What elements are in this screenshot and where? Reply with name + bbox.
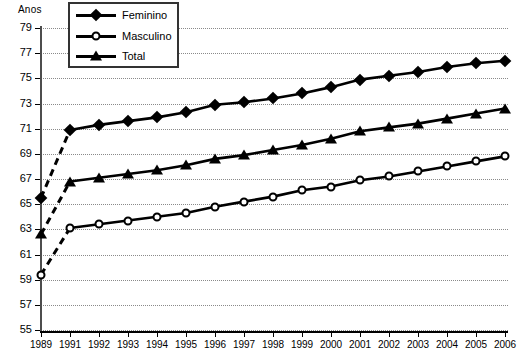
data-point-marker: [182, 208, 191, 217]
legend-item-feminino[interactable]: Feminino: [76, 8, 167, 22]
data-point-marker: [441, 61, 454, 74]
filled-triangle-icon: [76, 49, 116, 63]
data-point-marker: [472, 157, 481, 166]
data-point-marker: [470, 108, 482, 118]
data-point-marker: [296, 87, 309, 100]
data-point-marker: [267, 145, 279, 155]
filled-diamond-icon: [76, 8, 116, 22]
data-point-marker: [296, 140, 308, 150]
data-point-marker: [153, 212, 162, 221]
data-point-marker: [122, 115, 135, 128]
legend-label-masculino: Masculino: [122, 30, 172, 42]
data-point-marker: [412, 118, 424, 128]
data-point-marker: [238, 150, 250, 160]
data-point-marker: [267, 92, 280, 105]
data-point-marker: [354, 73, 367, 86]
legend-label-total: Total: [122, 50, 145, 62]
data-point-marker: [124, 216, 133, 225]
data-point-marker: [122, 168, 134, 178]
data-point-marker: [443, 162, 452, 171]
data-point-marker: [64, 176, 76, 186]
data-point-marker: [412, 66, 425, 79]
data-point-marker: [499, 103, 511, 113]
data-point-marker: [385, 172, 394, 181]
legend: Feminino Masculino Total: [68, 2, 179, 68]
data-point-marker: [37, 270, 46, 279]
data-point-marker: [501, 152, 510, 161]
data-point-marker: [383, 122, 395, 132]
data-point-marker: [356, 176, 365, 185]
data-point-marker: [93, 119, 106, 132]
data-point-marker: [35, 192, 48, 205]
data-point-marker: [327, 182, 336, 191]
data-point-marker: [470, 57, 483, 70]
data-point-marker: [325, 81, 338, 94]
data-point-marker: [325, 133, 337, 143]
data-point-marker: [414, 167, 423, 176]
data-point-marker: [499, 54, 512, 67]
open-circle-icon: [76, 29, 116, 43]
data-point-marker: [269, 192, 278, 201]
legend-item-masculino[interactable]: Masculino: [76, 29, 172, 43]
data-point-marker: [240, 197, 249, 206]
data-point-marker: [151, 165, 163, 175]
data-point-marker: [354, 126, 366, 136]
data-point-marker: [238, 96, 251, 109]
data-point-marker: [180, 106, 193, 119]
data-point-marker: [35, 229, 47, 239]
data-point-marker: [180, 160, 192, 170]
legend-label-feminino: Feminino: [122, 9, 167, 21]
data-point-marker: [209, 98, 222, 111]
legend-item-total[interactable]: Total: [76, 49, 145, 63]
data-point-marker: [66, 224, 75, 233]
data-point-marker: [95, 220, 104, 229]
data-point-marker: [64, 124, 77, 137]
data-point-marker: [93, 172, 105, 182]
data-point-marker: [151, 111, 164, 124]
data-point-marker: [441, 113, 453, 123]
life-expectancy-line-chart: Anos 55575961636567697173757779 19891991…: [0, 0, 518, 352]
data-point-marker: [209, 153, 221, 163]
data-point-marker: [383, 69, 396, 82]
data-point-marker: [298, 186, 307, 195]
data-point-marker: [211, 202, 220, 211]
